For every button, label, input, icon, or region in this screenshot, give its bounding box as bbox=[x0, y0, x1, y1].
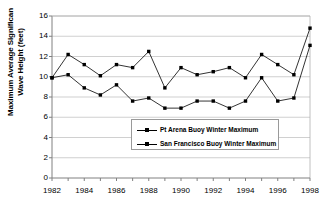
data-point-marker bbox=[260, 76, 263, 79]
data-point-marker bbox=[99, 93, 102, 96]
data-point-marker bbox=[131, 99, 134, 102]
data-point-marker bbox=[276, 99, 279, 102]
legend-marker-icon bbox=[137, 127, 157, 134]
data-point-marker bbox=[66, 53, 69, 56]
data-point-marker bbox=[179, 106, 182, 109]
data-point-marker bbox=[228, 66, 231, 69]
data-point-marker bbox=[131, 66, 134, 69]
data-point-marker bbox=[195, 73, 198, 76]
data-point-marker bbox=[212, 99, 215, 102]
data-point-marker bbox=[195, 99, 198, 102]
legend-item-label: San Francisco Buoy Winter Maximum bbox=[160, 140, 276, 148]
data-point-marker bbox=[228, 106, 231, 109]
data-point-marker bbox=[83, 63, 86, 66]
data-point-marker bbox=[66, 73, 69, 76]
data-point-marker bbox=[115, 63, 118, 66]
data-point-marker bbox=[244, 99, 247, 102]
data-point-marker bbox=[147, 96, 150, 99]
data-point-marker bbox=[179, 66, 182, 69]
legend-item-label: Pt Arena Buoy Winter Maximum bbox=[160, 126, 258, 134]
data-point-marker bbox=[163, 86, 166, 89]
plot-area bbox=[0, 0, 326, 207]
data-point-marker bbox=[308, 44, 311, 47]
data-point-marker bbox=[163, 106, 166, 109]
chart-container: Maximum Average Significan Wave Height (… bbox=[0, 0, 326, 207]
data-point-marker bbox=[212, 70, 215, 73]
data-point-marker bbox=[308, 26, 311, 29]
data-point-marker bbox=[147, 50, 150, 53]
legend-item: San Francisco Buoy Winter Maximum bbox=[137, 140, 276, 148]
data-point-marker bbox=[292, 96, 295, 99]
data-point-marker bbox=[244, 76, 247, 79]
legend-marker-icon bbox=[137, 141, 157, 148]
data-point-marker bbox=[276, 63, 279, 66]
data-point-marker bbox=[260, 53, 263, 56]
data-point-marker bbox=[99, 74, 102, 77]
data-point-marker bbox=[115, 83, 118, 86]
series-line-0 bbox=[52, 28, 310, 88]
legend-item: Pt Arena Buoy Winter Maximum bbox=[137, 126, 258, 134]
data-point-marker bbox=[50, 76, 53, 79]
data-point-marker bbox=[83, 86, 86, 89]
data-point-marker bbox=[292, 73, 295, 76]
